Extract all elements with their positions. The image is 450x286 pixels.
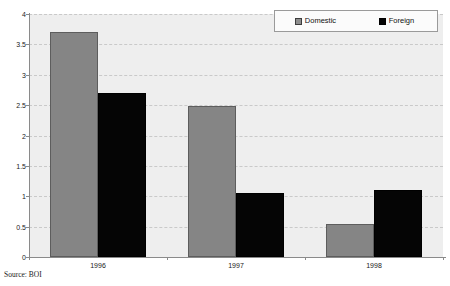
x-tick-mark (443, 257, 444, 260)
y-tick-label: 2.5 (2, 102, 26, 109)
bar-domestic-1996 (50, 32, 98, 257)
x-tick-label-1997: 1997 (228, 262, 244, 269)
y-tick-label: 2 (2, 132, 26, 139)
y-tick-label: 1.5 (2, 162, 26, 169)
legend-entry-domestic: Domestic (275, 17, 356, 25)
bar-domestic-1997 (188, 106, 236, 257)
bar-foreign-1998 (374, 190, 422, 257)
foreign-swatch-icon (379, 18, 386, 25)
bar-domestic-1998 (326, 224, 374, 257)
bar-chart-figure: 00.511.522.533.54 199619971998 Domestic … (0, 0, 450, 286)
bar-foreign-1997 (236, 193, 284, 257)
x-tick-label-1996: 1996 (90, 262, 106, 269)
y-tick-label: 4 (2, 11, 26, 18)
y-tick-label: 0.5 (2, 223, 26, 230)
legend-label-domestic: Domestic (305, 17, 336, 25)
x-tick-mark (29, 257, 30, 260)
legend-entry-foreign: Foreign (356, 17, 437, 25)
x-tick-mark (167, 257, 168, 260)
y-tick-label: 3.5 (2, 41, 26, 48)
bar-foreign-1996 (98, 93, 146, 257)
x-tick-label-1998: 1998 (366, 262, 382, 269)
x-tick-mark (305, 257, 306, 260)
domestic-swatch-icon (295, 18, 302, 25)
source-note: Source: BOI (4, 271, 42, 279)
y-tick-label: 1 (2, 193, 26, 200)
legend-label-foreign: Foreign (389, 17, 414, 25)
y-tick-label: 3 (2, 71, 26, 78)
y-axis-line (29, 13, 30, 258)
y-axis: 00.511.522.533.54 (0, 14, 26, 257)
chart-legend: Domestic Foreign (274, 10, 438, 32)
x-axis-line (26, 257, 446, 258)
y-tick-label: 0 (2, 254, 26, 261)
